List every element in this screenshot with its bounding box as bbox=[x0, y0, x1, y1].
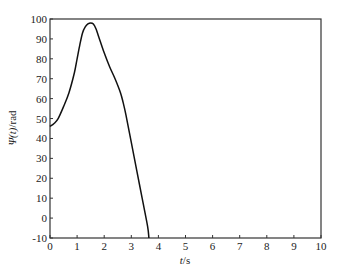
y-tick-label: 70 bbox=[36, 73, 48, 85]
x-axis-label: t/s bbox=[180, 254, 190, 266]
y-tick-label: -10 bbox=[32, 232, 47, 244]
y-tick-label: 30 bbox=[36, 152, 48, 164]
x-tick-label: 1 bbox=[74, 240, 80, 252]
x-tick-label: 10 bbox=[316, 240, 328, 252]
x-tick-label: 7 bbox=[237, 240, 243, 252]
x-tick-label: 0 bbox=[47, 240, 53, 252]
y-tick-label: 20 bbox=[36, 172, 48, 184]
y-tick-label: 90 bbox=[36, 33, 48, 45]
y-tick-label: 80 bbox=[36, 53, 48, 65]
series-line bbox=[50, 23, 149, 238]
x-tick-label: 8 bbox=[264, 240, 270, 252]
line-chart: 012345678910 -100102030405060708090100 t… bbox=[0, 0, 343, 280]
x-tick-label: 2 bbox=[101, 240, 107, 252]
x-tick-label: 3 bbox=[129, 240, 135, 252]
y-tick-label: 100 bbox=[31, 13, 48, 25]
y-tick-label: 60 bbox=[36, 93, 48, 105]
y-tick-label: 0 bbox=[42, 212, 48, 224]
y-tick-label: 10 bbox=[36, 192, 48, 204]
x-tick-label: 5 bbox=[183, 240, 189, 252]
x-tick-label: 4 bbox=[156, 240, 162, 252]
x-tick-label: 9 bbox=[291, 240, 297, 252]
y-tick-label: 50 bbox=[36, 113, 48, 125]
data-series bbox=[50, 23, 149, 238]
plot-frame bbox=[50, 19, 321, 238]
y-axis-label: Ψ(t)/rad bbox=[6, 110, 19, 146]
y-tick-label: 40 bbox=[36, 132, 48, 144]
x-tick-label: 6 bbox=[210, 240, 216, 252]
